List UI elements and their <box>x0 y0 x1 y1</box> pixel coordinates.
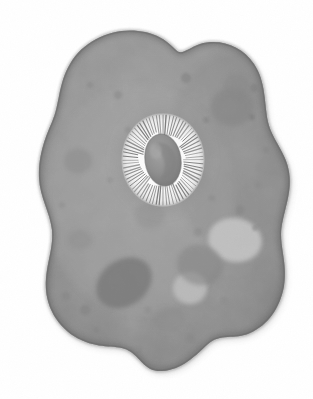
paper-grain-overlay <box>0 0 313 399</box>
amoeba-illustration <box>0 0 313 399</box>
amoeba-figure: Amoeba (Amoeba proteus) cell <box>0 0 313 399</box>
